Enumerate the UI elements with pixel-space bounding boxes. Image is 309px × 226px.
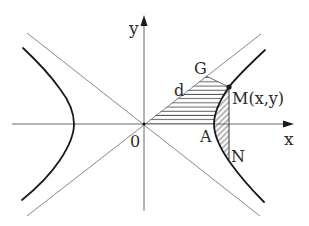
point-G-label: G [194, 59, 207, 78]
segment-d-label: d [174, 81, 184, 100]
origin-dot [142, 122, 145, 125]
point-N-label: N [231, 147, 245, 166]
origin-label: 0 [130, 132, 140, 151]
y-axis-arrow-icon [141, 15, 148, 26]
y-axis-label: y [128, 18, 139, 38]
point-A-label: A [199, 127, 212, 146]
x-axis-label: x [284, 129, 294, 149]
point-M-dot [226, 84, 231, 89]
x-axis-arrow-icon [283, 121, 294, 128]
hyperbola-diagram: y x 0 G d M(x,y) A N [0, 0, 309, 226]
point-M-label: M(x,y) [232, 89, 284, 108]
